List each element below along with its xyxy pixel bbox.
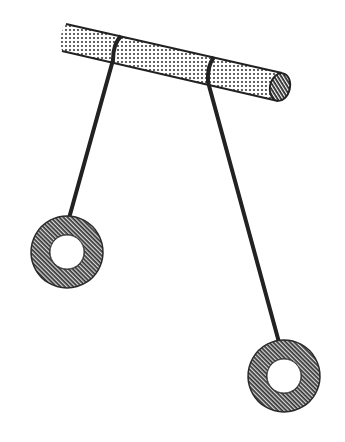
right-ring-hole — [267, 359, 301, 393]
left-ring-hole — [50, 235, 84, 269]
rod — [60, 24, 293, 103]
left-ring — [31, 216, 103, 288]
pendulum-rings-diagram — [0, 0, 345, 442]
left-string — [66, 60, 113, 229]
rod-body — [60, 24, 282, 101]
diagram-canvas — [0, 0, 345, 442]
right-string — [208, 82, 283, 357]
right-ring — [248, 340, 320, 412]
